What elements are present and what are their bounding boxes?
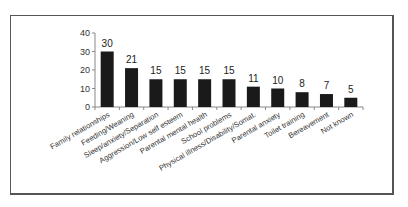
y-tick-label: 20 bbox=[80, 65, 90, 75]
data-label: 7 bbox=[324, 80, 330, 91]
data-label: 15 bbox=[175, 65, 187, 76]
bar bbox=[344, 98, 357, 107]
bars: 3021151515151110875 bbox=[101, 38, 358, 108]
bar bbox=[247, 87, 260, 107]
bar bbox=[320, 94, 333, 107]
data-label: 11 bbox=[248, 73, 259, 84]
bar-chart: 010203040 3021151515151110875 Family rel… bbox=[0, 0, 408, 207]
bar bbox=[223, 79, 236, 107]
bar bbox=[198, 79, 211, 107]
y-tick-label: 0 bbox=[85, 102, 90, 112]
data-label: 5 bbox=[348, 84, 354, 95]
bar bbox=[101, 52, 114, 108]
y-tick-label: 40 bbox=[80, 28, 90, 38]
data-label: 21 bbox=[126, 54, 138, 65]
bar bbox=[174, 79, 187, 107]
data-label: 15 bbox=[223, 65, 235, 76]
bar bbox=[149, 79, 162, 107]
bar bbox=[296, 92, 309, 107]
data-label: 10 bbox=[272, 75, 284, 86]
data-label: 15 bbox=[150, 65, 162, 76]
y-tick-label: 30 bbox=[80, 47, 90, 57]
category-labels: Family relationshipsFeeding/WeaningSleep… bbox=[49, 109, 355, 172]
y-tick-label: 10 bbox=[80, 84, 90, 94]
bar bbox=[125, 68, 138, 107]
data-label: 8 bbox=[299, 78, 305, 89]
data-label: 15 bbox=[199, 65, 211, 76]
data-label: 30 bbox=[102, 38, 114, 49]
bar bbox=[271, 89, 284, 108]
